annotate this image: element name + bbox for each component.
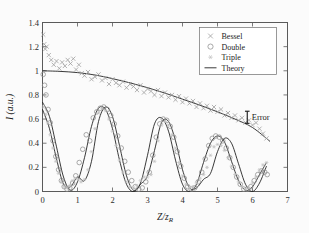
x-tick-label: 7 (285, 195, 289, 205)
y-tick-label: 0.6 (28, 114, 39, 124)
legend-label-bessel: Bessel (222, 32, 244, 41)
x-tick-label: 3 (145, 195, 149, 205)
y-axis-title: I (a.u.) (5, 94, 16, 121)
x-tick-label: 2 (110, 195, 114, 205)
y-tick-label: 0.2 (28, 162, 39, 172)
legend-label-theory: Theory (222, 64, 245, 73)
y-tick-label: 0.4 (28, 138, 39, 148)
x-tick-label: 1 (75, 195, 79, 205)
chart-canvas: 01234567 00.20.40.60.811.21.4 Error Bess… (0, 0, 309, 233)
y-tick-label: 1.4 (28, 18, 39, 28)
y-tick-label: 1.2 (28, 42, 39, 52)
y-tick-label: 1 (35, 66, 39, 76)
figure-container: 01234567 00.20.40.60.811.21.4 Error Bess… (0, 0, 309, 233)
legend-label-double: Double (222, 43, 246, 52)
x-tick-label: 5 (215, 195, 219, 205)
error-label: Error (252, 112, 270, 122)
x-tick-label: 6 (250, 195, 254, 205)
y-tick-label: 0.8 (28, 90, 39, 100)
x-tick-label: 0 (40, 195, 44, 205)
y-tick-label: 0 (35, 187, 39, 197)
legend: BesselDoubleTripleTheory (200, 28, 277, 75)
legend-label-triple: Triple (222, 53, 242, 62)
